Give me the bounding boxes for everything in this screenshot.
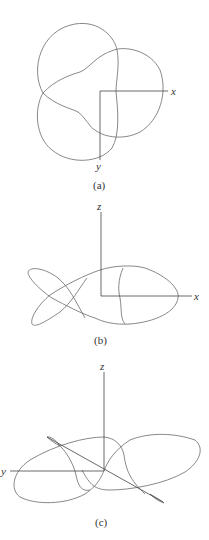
curve-inner-left [43, 50, 114, 93]
caption-a: (a) [93, 179, 106, 192]
z-axis-label: z [99, 360, 105, 372]
y-axis-label: y [95, 160, 101, 172]
curve-loop-lower-left [37, 92, 117, 160]
curve-loop-right [95, 49, 163, 137]
curve-loop-upper-left [38, 23, 119, 93]
figure-canvas: x y (a) z x (b) z y (c) [0, 0, 209, 540]
y-axis-label: y [0, 465, 6, 477]
curve-s-crossing-left [58, 444, 90, 490]
curve-left-loop [14, 437, 104, 503]
curve-inner-lower [43, 93, 95, 130]
z-axis-label: z [96, 200, 102, 212]
curve-fish-body [95, 266, 178, 324]
x-axis-label: x [193, 290, 199, 302]
x-axis-label: x [170, 85, 176, 97]
caption-b: (b) [94, 334, 107, 347]
figure-c: z y (c) [0, 360, 200, 529]
curve-fish-upper-stroke [32, 270, 100, 325]
figure-b: z x (b) [28, 200, 199, 347]
figure-a: x y (a) [37, 23, 176, 192]
caption-c: (c) [95, 516, 108, 529]
curve-right-loop [82, 434, 200, 490]
x-axis-diagonal [47, 437, 163, 502]
curve-s-crossing [104, 437, 145, 494]
